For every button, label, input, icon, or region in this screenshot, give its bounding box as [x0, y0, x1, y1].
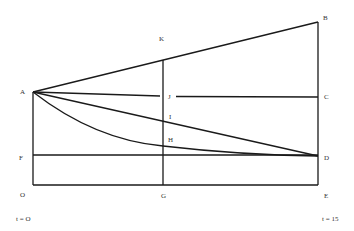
line-AB	[33, 22, 318, 92]
label-H: H	[168, 136, 173, 144]
label-O: O	[20, 191, 25, 199]
time-label-end: t = 15	[322, 215, 339, 223]
line-AD	[33, 92, 318, 156]
label-G: G	[161, 192, 166, 200]
label-I: I	[169, 113, 172, 121]
label-B: B	[323, 14, 328, 22]
label-A: A	[20, 88, 25, 96]
label-E: E	[324, 192, 328, 200]
time-label-start: t = O	[16, 215, 30, 223]
line-AJ	[33, 92, 160, 96]
label-D: D	[324, 154, 329, 162]
label-J: J	[168, 93, 171, 101]
line-JC	[176, 97, 318, 98]
label-C: C	[324, 93, 329, 101]
label-F: F	[19, 154, 23, 162]
label-K: K	[159, 35, 164, 43]
geometry-diagram: A B C D E F G H I J K O t = O t = 15	[0, 0, 354, 231]
